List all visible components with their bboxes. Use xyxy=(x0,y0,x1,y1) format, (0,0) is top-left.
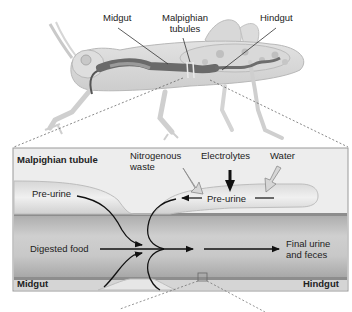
label-final-urine-feces: Final urine and feces xyxy=(286,238,330,260)
label-midgut: Midgut xyxy=(103,12,132,23)
label-electrolytes: Electrolytes xyxy=(201,150,250,161)
label-water: Water xyxy=(270,150,295,161)
detail-panel xyxy=(13,148,348,312)
label-pre-urine-tubule: Pre-urine xyxy=(207,193,246,204)
excretory-system-diagram: Midgut Malpighian tubules Hindgut Malpig… xyxy=(0,0,352,312)
label-hindgut-detail: Hindgut xyxy=(303,278,339,289)
label-malpighian-line2: tubules xyxy=(158,23,212,34)
label-midgut-detail: Midgut xyxy=(17,278,48,289)
label-malpighian-tubule-title: Malpighian tubule xyxy=(17,154,98,165)
label-nitrogenous-line2: waste xyxy=(130,161,181,172)
label-final-line2: and feces xyxy=(286,249,330,260)
grasshopper-illustration xyxy=(14,20,348,147)
label-nitrogenous-line1: Nitrogenous xyxy=(130,150,181,161)
label-digested-food: Digested food xyxy=(30,243,89,254)
label-nitrogenous-waste: Nitrogenous waste xyxy=(130,150,181,172)
label-hindgut: Hindgut xyxy=(260,12,293,23)
label-final-line1: Final urine xyxy=(286,238,330,249)
label-malpighian-line1: Malpighian xyxy=(158,12,212,23)
label-pre-urine-left: Pre-urine xyxy=(32,188,71,199)
label-malpighian-tubules: Malpighian tubules xyxy=(158,12,212,34)
